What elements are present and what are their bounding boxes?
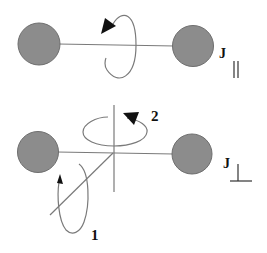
atom-right-parallel xyxy=(173,26,214,67)
dimer-rotation-diagram: J 2 1 J xyxy=(0,0,267,253)
label-j-perpendicular: J xyxy=(223,156,230,171)
label-j-parallel: J xyxy=(219,46,226,61)
atom-left-parallel xyxy=(18,23,60,65)
rotation-label-2: 2 xyxy=(151,108,159,124)
diagonal-axis xyxy=(50,153,113,215)
dimer-bond-parallel xyxy=(58,44,175,46)
dimer-bond-perpendicular xyxy=(57,152,174,154)
rotation-arrowhead-1-icon xyxy=(57,174,63,184)
rotation-loop-2 xyxy=(83,117,147,146)
atom-right-perpendicular xyxy=(172,134,212,174)
rotation-loop-1 xyxy=(58,164,88,233)
rotation-arrowhead-2-icon xyxy=(123,112,139,125)
bottom-panel: 2 1 J xyxy=(18,105,253,243)
atom-left-perpendicular xyxy=(18,132,59,173)
rotation-arrowhead-parallel-icon xyxy=(101,18,116,34)
top-panel: J xyxy=(18,15,238,78)
rotation-label-1: 1 xyxy=(91,227,99,243)
